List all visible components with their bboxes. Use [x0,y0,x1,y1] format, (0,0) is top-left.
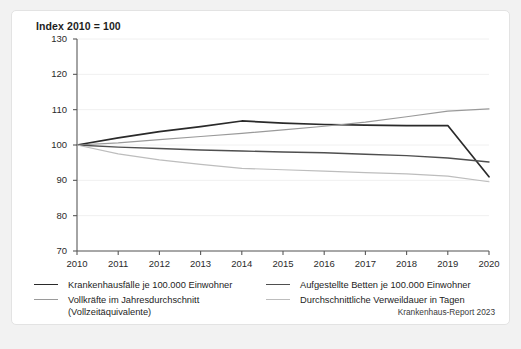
y-tick-label: 110 [41,104,67,115]
legend-column-left: Krankenhausfälle je 100.000 EinwohnerVol… [34,279,264,321]
x-tick-label: 2012 [139,258,179,269]
x-tick-label: 2016 [304,258,344,269]
legend-label: Vollkräfte im Jahresdurchschnitt (Vollze… [68,295,199,317]
figure-card: Index 2010 = 100 708090100110120130 2010… [11,10,510,325]
y-tick-label: 90 [41,174,67,185]
series-line-3 [77,145,489,182]
y-tick-label: 130 [41,33,67,44]
x-tick-label: 2018 [387,258,427,269]
legend-swatch-icon [266,284,290,285]
legend-entry: Krankenhausfälle je 100.000 Einwohner [34,279,264,291]
source-note: Krankenhaus-Report 2023 [398,307,495,317]
y-tick-label: 100 [41,139,67,150]
legend-label: Aufgestellte Betten je 100.000 Einwohner [300,280,471,290]
x-tick-label: 2013 [181,258,221,269]
series-line-1 [77,109,489,145]
legend-entry: Aufgestellte Betten je 100.000 Einwohner [266,279,496,291]
x-tick-label: 2014 [222,258,262,269]
tick-marks [73,39,489,255]
legend-label: Krankenhausfälle je 100.000 Einwohner [68,280,232,290]
legend-swatch-icon [34,284,58,285]
x-tick-label: 2020 [469,258,509,269]
x-tick-label: 2017 [345,258,385,269]
x-tick-label: 2011 [98,258,138,269]
x-tick-label: 2019 [428,258,468,269]
legend-entry: Durchschnittliche Verweildauer in Tagen [266,294,496,306]
y-tick-label: 80 [41,210,67,221]
legend-label: Durchschnittliche Verweildauer in Tagen [300,295,465,305]
series-line-2 [77,145,489,162]
legend-swatch-icon [34,299,58,300]
legend-column-right: Aufgestellte Betten je 100.000 Einwohner… [266,279,496,309]
legend-entry: Vollkräfte im Jahresdurchschnitt (Vollze… [34,294,264,318]
x-tick-label: 2015 [263,258,303,269]
x-tick-label: 2010 [57,258,97,269]
y-tick-label: 120 [41,68,67,79]
gridlines [77,39,489,251]
legend-swatch-icon [266,299,290,300]
y-tick-label: 70 [41,245,67,256]
